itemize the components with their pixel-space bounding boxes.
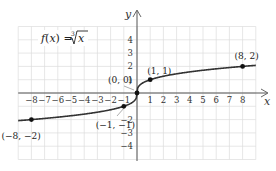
x-tick-label: 6 xyxy=(213,95,218,105)
x-tick-label: −6 xyxy=(52,95,65,105)
y-axis-label: y xyxy=(124,8,132,21)
radicand: x xyxy=(78,32,85,45)
data-point xyxy=(121,104,126,109)
leader-line-origin xyxy=(124,86,134,90)
cube-root-graph: x y −8−7−6−5−4−3−2−1123456784321−2−3−4 (… xyxy=(0,0,276,171)
x-tick-label: −8 xyxy=(25,95,38,105)
data-point xyxy=(148,77,153,82)
data-point xyxy=(240,64,245,69)
data-point xyxy=(29,117,34,122)
x-tick-label: −2 xyxy=(104,95,117,105)
title-text: f(x) = xyxy=(40,32,73,45)
y-tick-label: 4 xyxy=(128,35,133,45)
point-label: (8, 2) xyxy=(235,51,259,61)
function-title: f(x) = 3 x xyxy=(38,30,88,46)
radical-index: 3 xyxy=(71,30,75,37)
x-tick-label: −3 xyxy=(91,95,104,105)
y-tick-label: −4 xyxy=(120,141,133,151)
point-label: (−8, −2) xyxy=(1,131,40,141)
y-tick-label: 3 xyxy=(128,48,133,58)
x-tick-label: −4 xyxy=(78,95,91,105)
x-tick-label: 7 xyxy=(227,95,232,105)
y-tick-label: 2 xyxy=(128,61,133,71)
x-tick-label: 5 xyxy=(200,95,205,105)
x-tick-label: 3 xyxy=(174,95,179,105)
x-tick-label: −5 xyxy=(65,95,78,105)
point-label: (−1, −1) xyxy=(96,120,135,130)
point-label: (0, 0) xyxy=(108,75,132,85)
x-tick-label: 2 xyxy=(161,95,166,105)
x-tick-label: −7 xyxy=(38,95,51,105)
x-tick-label: −1 xyxy=(118,95,131,105)
x-tick-label: 1 xyxy=(147,95,152,105)
point-label: (1, 1) xyxy=(147,66,171,76)
x-tick-label: 4 xyxy=(187,95,192,105)
x-axis-label: x xyxy=(264,95,271,108)
data-point xyxy=(135,91,140,96)
x-tick-label: 8 xyxy=(240,95,245,105)
